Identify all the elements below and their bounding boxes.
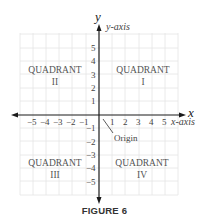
quadrant-II: QUADRANT II — [28, 65, 82, 87]
y-variable-label: y — [93, 9, 101, 24]
quadrant-IV: QUADRANT IV — [115, 158, 169, 180]
quadrant-title: QUADRANT — [115, 158, 169, 168]
origin-label: Origin — [114, 133, 138, 143]
x-tick: 3 — [136, 117, 141, 127]
x-tick: 5 — [162, 117, 167, 127]
y-axis-down-arrow-icon — [97, 197, 102, 204]
x-tick-labels: −5 −4 −3 −2 −1 1 2 3 4 5 — [27, 117, 167, 127]
x-axis-left-arrow-icon — [11, 113, 18, 118]
quadrant-title: QUADRANT — [28, 158, 82, 168]
y-tick: −1 — [86, 123, 96, 133]
x-axis-label: x-axis — [170, 116, 195, 127]
quadrant-title: QUADRANT — [28, 65, 82, 75]
quadrant-numeral: IV — [137, 170, 147, 180]
y-tick: −5 — [86, 177, 96, 187]
x-tick: −5 — [27, 117, 37, 127]
y-tick: 3 — [91, 70, 96, 80]
figure-caption: FIGURE 6 — [0, 205, 209, 216]
x-tick: −2 — [66, 117, 76, 127]
y-tick: 4 — [91, 56, 96, 66]
quadrant-numeral: I — [141, 77, 144, 87]
y-tick: −2 — [86, 137, 96, 147]
coordinate-plane: y y-axis x x-axis −5 −4 −3 −2 −1 1 2 3 4… — [0, 0, 209, 224]
quadrant-numeral: III — [50, 170, 60, 180]
y-axis-up-arrow-icon — [97, 24, 102, 31]
y-tick: −3 — [86, 150, 96, 160]
x-tick: 2 — [123, 117, 128, 127]
y-tick: 5 — [91, 43, 96, 53]
y-axis — [97, 24, 102, 204]
quadrant-III: QUADRANT III — [28, 158, 82, 180]
quadrant-title: QUADRANT — [116, 65, 170, 75]
x-tick: −4 — [40, 117, 50, 127]
x-tick: 4 — [149, 117, 154, 127]
y-tick: 1 — [91, 96, 96, 106]
quadrant-numeral: II — [52, 77, 58, 87]
y-tick: 2 — [91, 83, 96, 93]
x-tick: 1 — [110, 117, 115, 127]
y-tick: −4 — [86, 163, 96, 173]
quadrant-I: QUADRANT I — [116, 65, 170, 87]
x-tick: −3 — [53, 117, 63, 127]
y-axis-label: y-axis — [105, 21, 130, 32]
